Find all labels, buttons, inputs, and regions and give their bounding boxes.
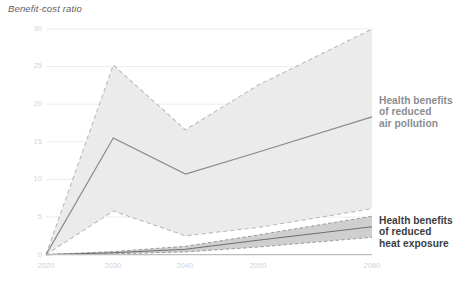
y-tick-15: 15	[26, 137, 42, 146]
x-tick-2030: 2030	[96, 261, 130, 270]
air-pollution-band	[46, 29, 372, 255]
y-tick-10: 10	[26, 174, 42, 183]
chart-container: Benefit-cost ratio 30 25 20 15 10	[0, 0, 474, 285]
y-tick-30: 30	[26, 24, 42, 33]
y-tick-20: 20	[26, 99, 42, 108]
annotation-heat-line3: heat exposure	[379, 238, 453, 249]
annotation-air-pollution: Health benefits of reduced air pollution	[379, 95, 453, 129]
annotation-heat-line2: of reduced	[379, 226, 453, 237]
annotation-heat-exposure: Health benefits of reduced heat exposure	[379, 215, 453, 249]
y-tick-5: 5	[26, 212, 42, 221]
annotation-air-line3: air pollution	[379, 118, 453, 129]
annotation-heat-line1: Health benefits	[379, 215, 453, 226]
y-tick-25: 25	[26, 61, 42, 70]
y-tick-0: 0	[26, 250, 42, 259]
annotation-air-line2: of reduced	[379, 106, 453, 117]
x-tick-2050: 2050	[241, 261, 275, 270]
x-tick-2020: 2020	[29, 261, 63, 270]
x-tick-2040: 2040	[168, 261, 202, 270]
x-tick-2060: 2060	[355, 261, 389, 270]
annotation-air-line1: Health benefits	[379, 95, 453, 106]
